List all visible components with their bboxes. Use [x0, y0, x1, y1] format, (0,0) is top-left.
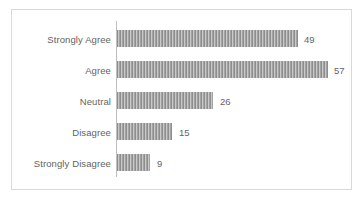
bar-row[interactable]: Strongly Disagree 9: [12, 154, 351, 171]
bar-value-label: 15: [179, 126, 190, 137]
bar-row[interactable]: Disagree 15: [12, 123, 351, 140]
bar[interactable]: [117, 123, 172, 140]
chart-card: Strongly Agree 49 Agree 57 Neutral 26 Di…: [11, 9, 352, 190]
plot-area: Strongly Agree 49 Agree 57 Neutral 26 Di…: [12, 10, 351, 189]
bar-row[interactable]: Neutral 26: [12, 92, 351, 109]
category-label: Strongly Agree: [12, 33, 111, 44]
bar-value-label: 9: [157, 157, 162, 168]
bar[interactable]: [117, 92, 213, 109]
bar[interactable]: [117, 154, 150, 171]
category-label: Neutral: [12, 95, 111, 106]
category-label: Disagree: [12, 126, 111, 137]
bar-value-label: 26: [220, 95, 231, 106]
bar-row[interactable]: Strongly Agree 49: [12, 30, 351, 47]
bar-row[interactable]: Agree 57: [12, 61, 351, 78]
bar[interactable]: [117, 61, 328, 78]
category-label: Agree: [12, 64, 111, 75]
category-label: Strongly Disagree: [12, 157, 111, 168]
bar-value-label: 57: [334, 64, 345, 75]
bar-value-label: 49: [304, 33, 315, 44]
bar[interactable]: [117, 30, 298, 47]
